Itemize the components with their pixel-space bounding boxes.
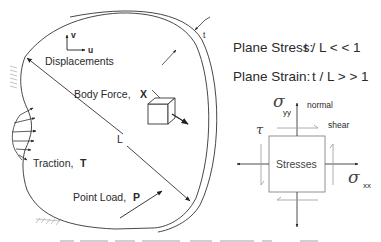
thickness-label: t [203, 30, 206, 40]
plane-strain-label: Plane Strain: [233, 69, 310, 84]
body-force-symbol: X [140, 88, 147, 100]
displacement-v-label: v [71, 30, 76, 40]
elasticity-diagram: v u Displacements L t Body Force, X Trac… [0, 0, 381, 242]
displacement-axes-icon [67, 35, 85, 50]
plane-stress-ratio: t / L < < 1 [304, 40, 361, 55]
point-load-symbol: P [133, 191, 140, 203]
fixed-support-hatch-bottom [36, 218, 60, 225]
fixed-support-hatch-left [10, 66, 17, 88]
plane-strain-ratio: t / L > > 1 [312, 69, 369, 84]
displacements-label: Displacements [45, 55, 114, 67]
tau-symbol: τ [256, 122, 264, 137]
normal-label: normal [307, 100, 333, 110]
stress-element-label: Stresses [276, 158, 317, 170]
shear-label: shear [328, 120, 349, 130]
traction-symbol: T [80, 157, 87, 169]
sigma-xx-symbol: σ [348, 167, 360, 187]
cube-icon [148, 98, 175, 124]
displacement-u-label: u [88, 45, 93, 55]
point-load-label: Point Load, [73, 191, 126, 203]
point-load-arrow [120, 191, 162, 218]
traction-label: Traction, [33, 157, 73, 169]
plane-stress-label: Plane Stress: [233, 40, 313, 55]
length-label: L [117, 133, 123, 145]
sigma-yy-subscript: yy [283, 108, 291, 117]
sigma-xx-subscript: xx [363, 181, 371, 190]
body-force-label: Body Force, [74, 88, 131, 100]
